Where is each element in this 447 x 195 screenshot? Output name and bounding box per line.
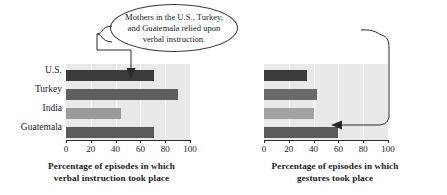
panel-gestures: U.S.TurkeyIndiaGuatemala Percentage of e… <box>223 0 447 195</box>
x-tick <box>289 140 290 143</box>
x-tick <box>388 140 389 143</box>
x-tick-label: 0 <box>54 144 78 155</box>
x-tick-label: 80 <box>351 144 375 155</box>
x-tick-label: 100 <box>376 144 400 155</box>
callout-right-connector-arrow <box>223 0 447 195</box>
two-panel-bar-chart-figure: U.S. Turkey India Guatemala Percentage o… <box>0 0 447 195</box>
x-tick-label: 40 <box>104 144 128 155</box>
x-tick-label: 100 <box>178 144 202 155</box>
x-tick <box>190 140 191 143</box>
x-tick <box>91 140 92 143</box>
x-tick-label: 40 <box>302 144 326 155</box>
x-tick <box>314 140 315 143</box>
x-tick-label: 20 <box>277 144 301 155</box>
x-tick-label: 80 <box>153 144 177 155</box>
x-tick-label: 20 <box>79 144 103 155</box>
category-labels-right: U.S.TurkeyIndiaGuatemala <box>163 64 225 140</box>
x-tick <box>264 140 265 143</box>
x-tick-label: 0 <box>252 144 276 155</box>
x-tick <box>140 140 141 143</box>
x-tick-label: 60 <box>128 144 152 155</box>
x-tick <box>165 140 166 143</box>
x-tick <box>116 140 117 143</box>
x-tick <box>363 140 364 143</box>
x-tick <box>338 140 339 143</box>
x-tick <box>66 140 67 143</box>
x-tick-label: 60 <box>326 144 350 155</box>
